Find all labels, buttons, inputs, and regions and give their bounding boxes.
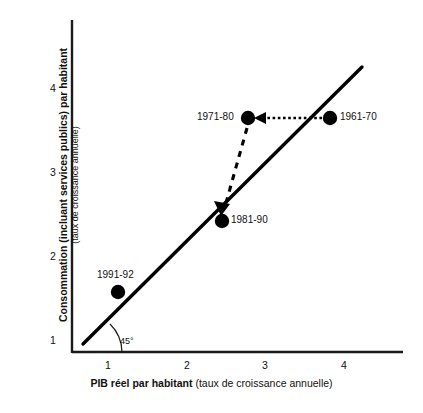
data-point-1961-70[interactable]	[323, 111, 337, 125]
x-tick-label-1: 1	[99, 359, 117, 371]
angle-annotation-label: 45°	[120, 336, 134, 346]
y-tick-label-4: 4	[44, 82, 62, 94]
x-tick-label-4: 4	[335, 359, 353, 371]
data-point-1991-92[interactable]	[111, 285, 125, 299]
point-label-1991-92: 1991-92	[97, 269, 134, 280]
point-label-1971-80: 1971-80	[197, 111, 234, 122]
data-point-1981-90[interactable]	[215, 214, 229, 228]
data-point-1971-80[interactable]	[241, 111, 255, 125]
y-tick-label-3: 3	[44, 166, 62, 178]
x-tick-label-3: 3	[256, 359, 274, 371]
y-tick-label-1: 1	[44, 334, 62, 346]
point-label-1961-70: 1961-70	[340, 111, 377, 122]
x-tick-label-2: 2	[178, 359, 196, 371]
x-axis-title-main: PIB réel par habitant	[90, 377, 192, 389]
x-axis-title: PIB réel par habitant (taux de croissanc…	[0, 378, 423, 390]
y-tick-label-2: 2	[44, 250, 62, 262]
chart-container: Consommation (incluant services publics)…	[0, 0, 423, 413]
y-axis-title: Consommation (incluant services publics)…	[52, 30, 86, 340]
point-label-1981-90: 1981-90	[231, 214, 268, 225]
y-axis-title-sub: (taux de croissance annuelle)	[70, 126, 80, 244]
arrow-1971-80-to-1981-90	[214, 128, 247, 216]
x-axis-title-sub: (taux de croissance annuelle)	[195, 377, 332, 389]
